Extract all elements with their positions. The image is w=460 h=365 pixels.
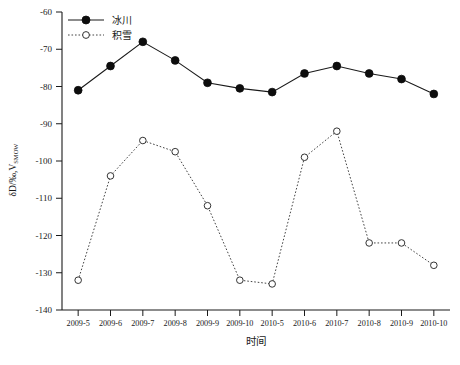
x-tick-label: 2010-7 (325, 319, 348, 328)
data-point (172, 148, 179, 155)
x-tick-label: 2010-5 (261, 319, 284, 328)
y-axis-title: δD/‰,VSMOW (8, 143, 19, 197)
data-point (268, 88, 276, 96)
data-point (204, 79, 212, 87)
data-point (398, 75, 406, 83)
y-axis-title-main: δD/‰,V (8, 164, 18, 197)
x-tick-label: 2009-6 (99, 319, 122, 328)
data-point (204, 202, 211, 209)
data-point (398, 240, 405, 247)
data-point (366, 240, 373, 247)
y-tick-label: -70 (40, 44, 52, 54)
data-point (75, 277, 82, 284)
x-axis-ticks: 2009-52009-62009-72009-82009-92009-10201… (67, 310, 448, 328)
y-tick-label: -130 (36, 268, 53, 278)
data-point (171, 57, 179, 65)
x-tick-label: 2010-9 (390, 319, 413, 328)
x-tick-label: 2009-5 (67, 319, 90, 328)
legend-marker-1 (82, 16, 90, 24)
legend-label-1: 冰川 (112, 14, 132, 26)
chart-axes (62, 12, 450, 310)
data-point (431, 262, 438, 269)
x-tick-label: 2010-8 (358, 319, 381, 328)
y-tick-label: -110 (36, 193, 53, 203)
y-tick-label: -60 (40, 7, 52, 17)
x-tick-label: 2009-9 (196, 319, 219, 328)
x-tick-label: 2010-6 (293, 319, 316, 328)
data-point (140, 137, 147, 144)
data-point (139, 38, 147, 46)
y-tick-label: -90 (40, 119, 52, 129)
y-axis-ticks: -60-70-80-90-100-110-120-130-140 (36, 7, 63, 315)
x-tick-label: 2009-10 (226, 319, 253, 328)
series-line-2 (78, 131, 434, 284)
x-tick-label: 2009-8 (164, 319, 187, 328)
y-axis-title-sub: SMOW (12, 143, 19, 164)
svg-text:δD/‰,VSMOW: δD/‰,VSMOW (8, 143, 19, 197)
x-tick-label: 2009-7 (131, 319, 154, 328)
x-axis-title: 时间 (246, 335, 266, 347)
y-tick-label: -140 (36, 305, 53, 315)
chart-series-layer (74, 38, 437, 287)
data-point (237, 277, 244, 284)
series-line-1 (78, 42, 434, 94)
y-tick-label: -100 (36, 156, 53, 166)
data-point (107, 173, 114, 180)
y-tick-label: -120 (36, 231, 53, 241)
line-chart: -60-70-80-90-100-110-120-130-140 2009-52… (0, 0, 460, 365)
data-point (269, 281, 276, 288)
data-point (334, 128, 341, 135)
data-point (107, 62, 115, 70)
data-point (301, 154, 308, 161)
x-tick-label: 2010-10 (420, 319, 447, 328)
y-tick-label: -80 (40, 82, 52, 92)
legend-label-2: 积雪 (112, 30, 132, 41)
data-point (365, 70, 373, 78)
data-point (74, 86, 82, 94)
chart-legend: 冰川积雪 (68, 14, 132, 41)
data-point (236, 84, 244, 92)
legend-marker-2 (83, 32, 90, 39)
data-point (301, 70, 309, 78)
data-point (333, 62, 341, 70)
data-point (430, 90, 438, 98)
chart-figure: -60-70-80-90-100-110-120-130-140 2009-52… (0, 0, 460, 365)
